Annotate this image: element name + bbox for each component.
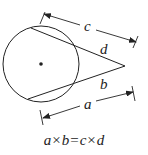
upper-secant-line [31,28,125,66]
dimension-a-arrow-right [96,92,133,101]
center-dot [39,62,43,66]
label-d: d [99,42,109,57]
secant-diagram: c d b a a×b=c×d [0,0,148,155]
formula-equals: = [69,132,79,148]
label-a: a [83,97,93,112]
lower-secant-line [28,66,125,99]
formula-d: d [97,132,105,148]
dimension-a-right-tick [132,86,135,101]
formula-times-1: × [51,132,61,148]
dimension-a-left-tick [40,110,43,125]
formula-times-2: × [86,132,96,148]
label-c: c [83,19,92,34]
dimension-a-arrow-left [43,106,80,118]
formula: a×b=c×d [0,133,148,148]
label-b: b [99,77,109,92]
dimension-c-arrow-left [44,14,80,25]
